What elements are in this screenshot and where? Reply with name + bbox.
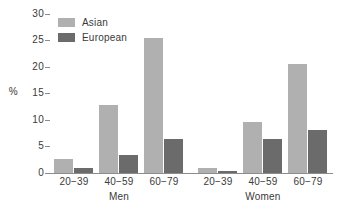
y-tick-label: 15 <box>20 87 44 99</box>
bar-asian-men-20-39 <box>54 159 73 173</box>
x-tick-label-men-60-79: 60−79 <box>141 176 187 187</box>
bar-european-women-40-59 <box>263 139 282 173</box>
bar-asian-men-40-59 <box>99 105 118 173</box>
y-tick-label: 20 <box>20 61 44 73</box>
y-tick-label: 30 <box>20 8 44 20</box>
y-tick-label: 0 <box>20 167 44 179</box>
y-tick-label: 5 <box>20 140 44 152</box>
y-tick-label: 10 <box>20 114 44 126</box>
bar-asian-women-60-79 <box>288 64 307 173</box>
x-axis-line <box>46 173 333 174</box>
bar-european-women-60-79 <box>308 130 327 173</box>
x-tick-label-women-20-39: 20−39 <box>195 176 241 187</box>
x-tick-label-men-40-59: 40−59 <box>96 176 142 187</box>
bar-chart: % 30 25 20 15 10 5 0 Asian European <box>0 0 337 208</box>
x-group-label-men: Men <box>84 191 154 202</box>
y-tick-label: 25 <box>20 34 44 46</box>
bar-asian-women-40-59 <box>243 122 262 173</box>
x-tick-label-women-60-79: 60−79 <box>285 176 331 187</box>
x-group-label-women: Women <box>228 191 298 202</box>
bar-european-men-60-79 <box>164 139 183 173</box>
x-tick-label-men-20-39: 20−39 <box>51 176 97 187</box>
x-tick-label-women-40-59: 40−59 <box>240 176 286 187</box>
bar-european-men-40-59 <box>119 155 138 173</box>
plot-area <box>50 14 331 173</box>
bar-asian-men-60-79 <box>144 38 163 173</box>
